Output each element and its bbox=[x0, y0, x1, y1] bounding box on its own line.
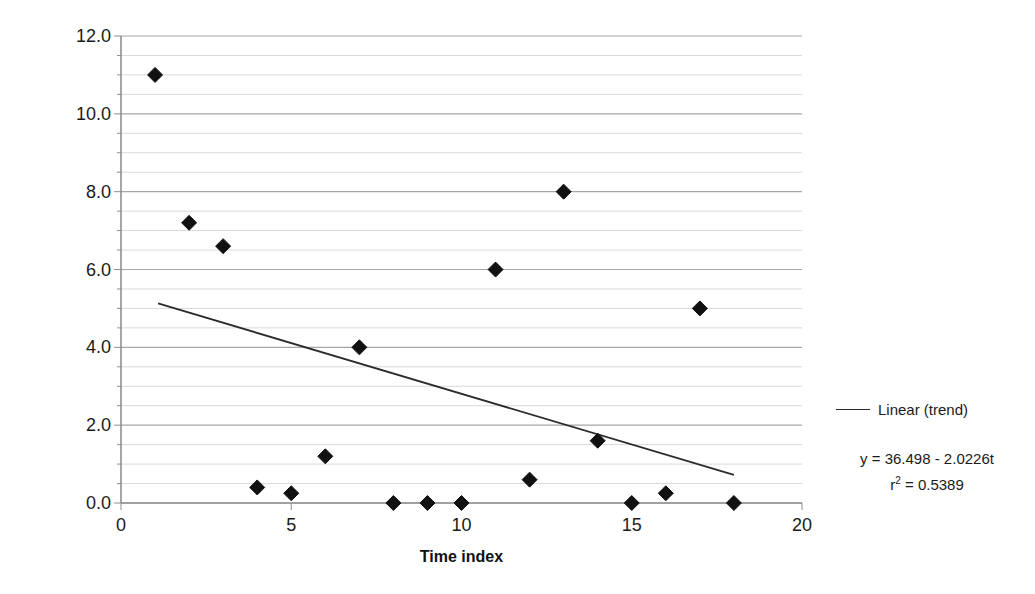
data-point-marker bbox=[352, 340, 367, 355]
data-point-marker bbox=[284, 486, 299, 501]
data-point-marker bbox=[148, 67, 163, 82]
data-point-marker bbox=[420, 496, 435, 511]
data-point-marker bbox=[726, 496, 741, 511]
r-squared-rest: = 0.5389 bbox=[901, 476, 964, 493]
scatter-chart: Winter Rainfall (mm) 0.02.04.06.08.010.0… bbox=[0, 0, 1035, 594]
data-point-marker bbox=[692, 301, 707, 316]
legend-item-linear-trend: Linear (trend) bbox=[836, 398, 1026, 420]
axis-tick-marks bbox=[114, 36, 802, 510]
data-point-marker bbox=[454, 496, 469, 511]
data-point-marker bbox=[318, 449, 333, 464]
r-squared-value: r2 = 0.5389 bbox=[836, 470, 1018, 496]
legend: Linear (trend) bbox=[836, 398, 1026, 420]
data-point-marker bbox=[182, 215, 197, 230]
data-point-marker bbox=[216, 239, 231, 254]
data-point-marker bbox=[556, 184, 571, 199]
legend-line-swatch-icon bbox=[836, 409, 870, 410]
data-point-marker bbox=[522, 472, 537, 487]
data-point-marker bbox=[386, 496, 401, 511]
x-axis-title: Time index bbox=[121, 548, 802, 566]
legend-item-label: Linear (trend) bbox=[878, 401, 968, 418]
data-point-marker bbox=[488, 262, 503, 277]
data-point-marker bbox=[624, 496, 639, 511]
data-point-marker bbox=[658, 486, 673, 501]
regression-equation: y = 36.498 - 2.0226t bbox=[836, 448, 1018, 470]
plot-area bbox=[0, 0, 1035, 594]
trend-line bbox=[158, 303, 734, 475]
data-point-marker bbox=[250, 480, 265, 495]
regression-annotations: y = 36.498 - 2.0226t r2 = 0.5389 bbox=[836, 448, 1018, 496]
